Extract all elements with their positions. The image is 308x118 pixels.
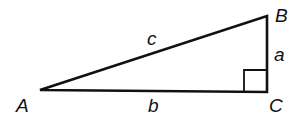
- right-triangle-diagram: A B C c a b: [0, 0, 308, 118]
- right-angle-marker: [244, 70, 267, 92]
- side-label-c: c: [147, 28, 157, 49]
- vertex-label-b: B: [275, 5, 288, 26]
- vertex-label-c: C: [269, 95, 283, 116]
- vertex-label-a: A: [15, 95, 29, 116]
- side-label-a: a: [274, 44, 285, 65]
- side-label-b: b: [148, 95, 159, 116]
